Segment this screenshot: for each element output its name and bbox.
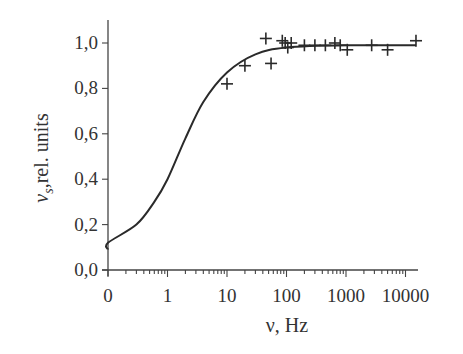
x-tick-label: 1000 [327, 285, 365, 306]
data-markers [221, 32, 422, 89]
y-tick-label: 0,8 [74, 77, 98, 98]
axes [102, 20, 418, 276]
plus-marker [265, 57, 277, 69]
y-tick-label: 0,0 [74, 259, 98, 280]
plus-marker [366, 39, 378, 51]
x-tick-label: 0 [103, 285, 113, 306]
y-tick-labels: 0,00,20,40,60,81,0 [74, 32, 98, 280]
x-tick-label: 1 [163, 285, 173, 306]
plus-marker [329, 37, 341, 49]
x-tick-label: 10000 [382, 285, 430, 306]
y-tick-label: 0,4 [74, 168, 98, 189]
y-tick-label: 0,2 [74, 214, 98, 235]
plus-marker [260, 32, 272, 44]
x-tick-label: 100 [272, 285, 301, 306]
x-tick-labels: 0110100100010000 [103, 285, 429, 306]
plus-marker [319, 39, 331, 51]
x-axis-label: ν, Hz [266, 314, 308, 336]
plus-marker [276, 35, 288, 47]
plus-marker [221, 78, 233, 90]
x-tick-label: 10 [218, 285, 237, 306]
chart: 0,00,20,40,60,81,0 0110100100010000 ν, H… [0, 0, 463, 354]
model-curve [106, 45, 416, 249]
plus-marker [309, 39, 321, 51]
ticks [102, 43, 406, 277]
y-axis-label: vs,rel. units [30, 113, 56, 203]
plus-marker [298, 39, 310, 51]
y-tick-label: 1,0 [74, 32, 98, 53]
y-tick-label: 0,6 [74, 123, 98, 144]
